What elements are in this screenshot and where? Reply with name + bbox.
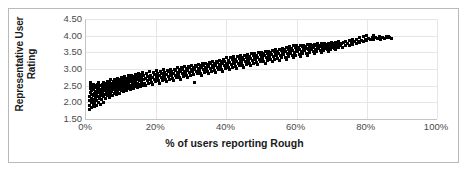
scatter-point	[285, 58, 288, 61]
y-tick-label: 3.50	[52, 47, 82, 57]
y-axis-title: Representative User Rating	[9, 9, 43, 119]
x-tick-label: 40%	[205, 121, 245, 133]
scatter-point	[207, 72, 210, 75]
scatter-point	[313, 52, 316, 55]
scatter-point	[306, 54, 309, 57]
x-tick-label: 100%	[416, 121, 456, 133]
scatter-point	[228, 68, 231, 71]
x-tick-label: 60%	[276, 121, 316, 133]
scatter-point	[200, 74, 203, 77]
y-tick-label: 4.50	[52, 14, 82, 24]
x-tick-label: 80%	[346, 121, 386, 133]
scatter-point	[278, 59, 281, 62]
scatter-point	[214, 71, 217, 74]
scatter-point	[242, 66, 245, 69]
gridline-vertical	[437, 19, 438, 119]
scatter-point	[264, 62, 267, 65]
plot-area	[85, 19, 437, 120]
scatter-point	[390, 37, 393, 40]
scatter-point	[186, 76, 189, 79]
scatter-point	[221, 70, 224, 73]
x-axis-title: % of users reporting Rough	[9, 137, 460, 149]
chart-frame: Representative User Rating 1.502.002.503…	[8, 8, 459, 163]
scatter-points-layer	[86, 19, 437, 119]
x-tick-label: 0%	[65, 121, 105, 133]
chart-container: Representative User Rating 1.502.002.503…	[9, 9, 458, 162]
scatter-point	[192, 73, 195, 76]
scatter-point	[102, 101, 105, 104]
scatter-point	[256, 63, 259, 66]
scatter-point	[249, 64, 252, 67]
y-axis-title-line2: Rating	[26, 49, 39, 80]
scatter-point	[299, 55, 302, 58]
scatter-point	[165, 80, 168, 83]
x-tick-label: 20%	[135, 121, 175, 133]
y-tick-label: 3.00	[52, 64, 82, 74]
scatter-point	[179, 78, 182, 81]
scatter-point	[271, 60, 274, 63]
scatter-point	[172, 79, 175, 82]
y-tick-label: 2.50	[52, 81, 82, 91]
y-tick-label: 4.00	[52, 31, 82, 41]
scatter-point	[292, 56, 295, 59]
y-tick-label: 2.00	[52, 97, 82, 107]
y-axis-title-line1: Representative User	[14, 17, 27, 112]
scatter-point	[158, 82, 161, 85]
scatter-point	[193, 81, 196, 84]
x-axis-tick-labels: 0%20%40%60%80%100%	[85, 121, 436, 135]
scatter-point	[235, 67, 238, 70]
